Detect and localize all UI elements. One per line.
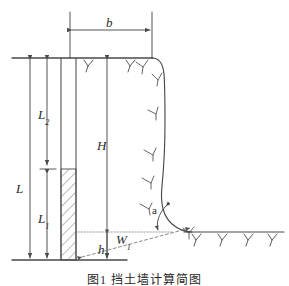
label-b: b [106,16,113,33]
slope-curve [152,58,192,232]
right-ground-hatch-marks [192,234,277,246]
label-L2: L2 [38,108,49,125]
hatched-footing-block [61,169,76,260]
diagram-canvas [0,0,289,286]
angle-a-arc [157,206,166,230]
figure-caption: 图1 挡土墙计算简图 [0,270,289,286]
label-L1: L1 [38,212,49,229]
top-ground-hatch-marks [84,60,135,72]
label-h: h [98,243,105,260]
label-angle-a: a [152,205,157,216]
figure-container: b L L2 L1 H h W1 a 图1 挡土墙计算简图 [0,0,289,286]
label-L: L [16,182,23,199]
label-W1: W1 [116,233,131,250]
label-H: H [97,139,106,156]
